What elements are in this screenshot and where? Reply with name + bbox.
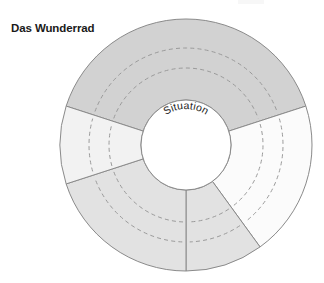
wunderrad-diagram: Situation xyxy=(0,0,324,283)
inner-hub-circle xyxy=(141,100,231,190)
